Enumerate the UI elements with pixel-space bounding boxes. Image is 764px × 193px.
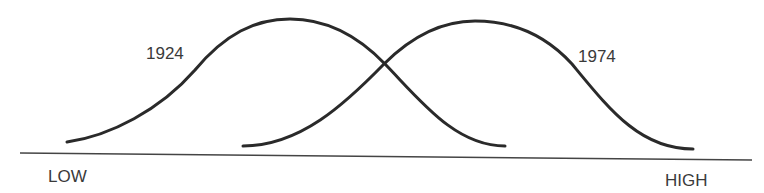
curve-1974 [243,21,693,149]
curve-1924 [67,19,505,146]
axis-label-low: LOW [48,167,87,186]
distribution-shift-diagram: 1924 1974 LOW HIGH [0,0,764,193]
label-1924: 1924 [146,44,184,63]
label-1974: 1974 [578,47,616,66]
axis-baseline [20,153,752,160]
axis-label-high: HIGH [665,171,708,190]
